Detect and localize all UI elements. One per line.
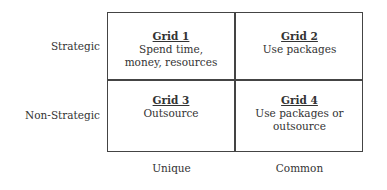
grid-2-title: Grid 2 bbox=[236, 30, 363, 43]
grid-cell-4: Grid 4 Use packages or outsource bbox=[236, 94, 363, 133]
grid-2-line1: Use packages bbox=[236, 43, 363, 56]
grid-4-line1: Use packages or bbox=[236, 107, 363, 120]
column-label-common: Common bbox=[236, 162, 363, 174]
horizontal-divider bbox=[107, 79, 363, 81]
grid-4-title: Grid 4 bbox=[236, 94, 363, 107]
grid-1-line1: Spend time, bbox=[108, 43, 234, 56]
grid-cell-1: Grid 1 Spend time, money, resources bbox=[108, 30, 234, 69]
grid-3-title: Grid 3 bbox=[108, 94, 234, 107]
grid-3-line1: Outsource bbox=[108, 107, 234, 120]
grid-1-line2: money, resources bbox=[108, 56, 234, 69]
row-label-strategic: Strategic bbox=[4, 40, 100, 52]
grid-1-title: Grid 1 bbox=[108, 30, 234, 43]
column-label-unique: Unique bbox=[108, 162, 235, 174]
grid-4-line2: outsource bbox=[236, 120, 363, 133]
grid-cell-3: Grid 3 Outsource bbox=[108, 94, 234, 120]
row-label-non-strategic: Non-Strategic bbox=[4, 109, 100, 121]
grid-cell-2: Grid 2 Use packages bbox=[236, 30, 363, 56]
